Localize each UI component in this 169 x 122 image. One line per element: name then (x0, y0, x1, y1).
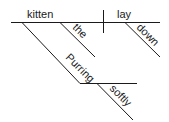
predicate-adverb-word: down (135, 21, 162, 48)
participle-adverb-word: softly (108, 82, 135, 109)
participle-word: Purring (64, 51, 98, 85)
subject-word: kitten (27, 8, 53, 20)
sentence-diagram: kitten lay the down Purring softly (0, 0, 169, 122)
predicate-word: lay (117, 8, 132, 20)
article-word: the (71, 21, 90, 40)
